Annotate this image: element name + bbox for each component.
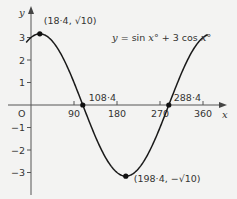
- equation-label: y = sin x° + 3 cos x°: [111, 32, 211, 43]
- y-tick-label: 2: [19, 55, 25, 66]
- key-point-marker: [166, 102, 171, 107]
- x-axis-arrow-icon: [219, 102, 227, 108]
- x-tick-label: 360: [194, 108, 212, 119]
- x-tick-label: 180: [108, 108, 126, 119]
- key-point-marker: [80, 102, 85, 107]
- y-tick-label: 3: [19, 32, 25, 43]
- key-point-label: 108·4: [89, 92, 116, 103]
- x-tick-label: 90: [68, 108, 80, 119]
- x-axis-label: x: [222, 109, 228, 120]
- key-point-marker: [123, 174, 128, 179]
- y-tick-label: −1: [11, 122, 25, 133]
- key-point-label: 288·4: [174, 92, 201, 103]
- origin-label: O: [18, 108, 25, 119]
- key-point-label: (18·4, √10): [44, 15, 97, 26]
- y-axis-arrow-icon: [28, 6, 34, 14]
- key-point-label: (198·4, −√10): [134, 173, 201, 184]
- key-point-marker: [37, 31, 42, 36]
- sinusoid-chart: 90180270360−3−2−1123 y x O (18·4, √10)10…: [0, 0, 237, 199]
- y-tick-label: −3: [11, 167, 25, 178]
- y-axis-label: y: [18, 7, 25, 18]
- y-tick-label: −2: [11, 145, 25, 156]
- y-tick-label: 1: [19, 77, 25, 88]
